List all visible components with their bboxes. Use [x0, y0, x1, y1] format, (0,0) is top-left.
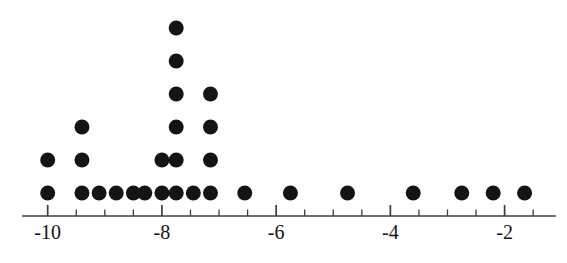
data-dot	[454, 186, 469, 201]
data-dot	[169, 153, 184, 168]
x-axis-tick-label: -10	[34, 221, 61, 243]
data-dot	[203, 153, 218, 168]
data-dot	[169, 87, 184, 102]
x-axis-tick-label: -6	[268, 221, 285, 243]
data-dot	[283, 186, 298, 201]
data-dot	[137, 186, 152, 201]
data-dot	[154, 153, 169, 168]
data-dot	[154, 186, 169, 201]
data-dot	[406, 186, 421, 201]
data-dot	[340, 186, 355, 201]
data-dot	[237, 186, 252, 201]
dot-plot-canvas: -10-8-6-4-2	[0, 0, 567, 263]
data-dot	[203, 87, 218, 102]
data-dot	[74, 186, 89, 201]
data-dot	[486, 186, 501, 201]
dot-stacks	[40, 21, 532, 201]
data-dot	[169, 21, 184, 36]
data-dot	[40, 186, 55, 201]
data-dot	[186, 186, 201, 201]
x-axis-tick-labels: -10-8-6-4-2	[34, 221, 513, 243]
data-dot	[92, 186, 107, 201]
data-dot	[74, 153, 89, 168]
x-axis-ticks	[48, 205, 533, 216]
data-dot	[109, 186, 124, 201]
x-axis-tick-label: -2	[496, 221, 513, 243]
data-dot	[203, 120, 218, 135]
data-dot	[169, 186, 184, 201]
x-axis-tick-label: -4	[382, 221, 399, 243]
dot-plot-figure: -10-8-6-4-2	[0, 0, 567, 263]
data-dot	[74, 120, 89, 135]
data-dot	[203, 186, 218, 201]
data-dot	[517, 186, 532, 201]
data-dot	[169, 54, 184, 69]
x-axis-tick-label: -8	[154, 221, 171, 243]
data-dot	[169, 120, 184, 135]
data-dot	[40, 153, 55, 168]
